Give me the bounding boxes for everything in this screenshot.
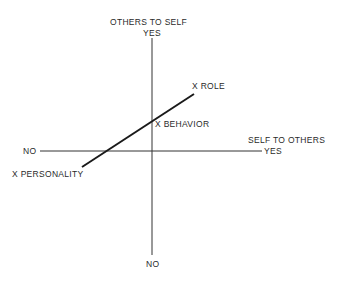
vertical-axis-title: OTHERS TO SELF	[110, 18, 187, 27]
vertical-axis-bottom-label: NO	[146, 260, 159, 269]
horizontal-axis-right-label: YES	[264, 147, 282, 156]
point-label-role: X ROLE	[192, 82, 225, 91]
horizontal-axis-title: SELF TO OTHERS	[248, 136, 325, 145]
diagonal-line	[82, 94, 194, 167]
horizontal-axis-left-label: NO	[23, 147, 36, 156]
point-label-personality: X PERSONALITY	[12, 170, 83, 179]
point-label-behavior: X BEHAVIOR	[155, 120, 209, 129]
vertical-axis-top-label: YES	[143, 29, 161, 38]
